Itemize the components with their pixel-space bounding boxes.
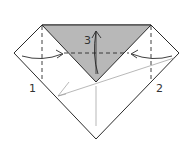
step-label-2: 2 [156,83,163,94]
origami-diagram [0,0,194,144]
step-label-1: 1 [29,83,36,94]
step-label-3: 3 [84,35,91,46]
